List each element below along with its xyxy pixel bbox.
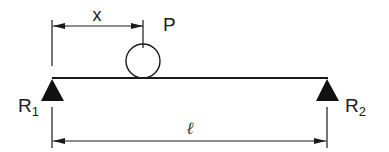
left-support: R1 xyxy=(18,79,64,119)
span-dimension: ℓ xyxy=(53,118,326,141)
x-label: x xyxy=(93,5,102,25)
beam-diagram: x P R1 R2 ℓ xyxy=(0,0,389,152)
span-label: ℓ xyxy=(186,118,193,138)
right-support-triangle xyxy=(316,79,339,101)
right-support: R2 xyxy=(316,79,366,119)
p-label: P xyxy=(163,14,176,35)
r2-label: R2 xyxy=(345,95,366,119)
left-support-triangle xyxy=(41,79,64,101)
point-load: P xyxy=(126,14,176,78)
x-dimension: x xyxy=(53,5,143,26)
load-roller-circle xyxy=(126,44,160,78)
r1-label: R1 xyxy=(18,95,39,119)
